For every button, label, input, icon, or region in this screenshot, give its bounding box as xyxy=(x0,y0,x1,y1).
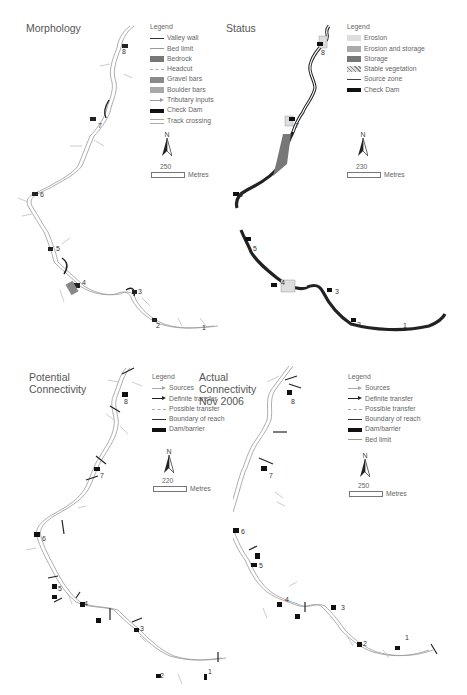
bedrock-swatch-icon xyxy=(150,56,164,62)
boulder-bars-swatch-icon xyxy=(150,87,164,93)
scale-bar-graphic xyxy=(151,172,185,178)
reach-label-7: 7 xyxy=(269,472,273,479)
reach-label-2: 2 xyxy=(160,672,164,679)
panel-title-actual-connectivity: Actual Connectivity Nov 2006 xyxy=(199,371,256,407)
legend-item-boulder-bars: Boulder bars xyxy=(150,85,214,95)
boundary-of-reach-icon xyxy=(152,416,166,423)
legend-item-bedrock: Bedrock xyxy=(150,54,214,64)
panel-morphology: 8 7 6 5 4 3 2 1 Morphology Legend Valley… xyxy=(0,0,233,340)
legend-status: Legend Erosion Erosion and storage Stora… xyxy=(347,22,425,95)
possible-transfer-icon xyxy=(152,406,166,413)
legend-item-storage: Storage xyxy=(347,54,425,64)
legend-title: Legend xyxy=(347,22,425,32)
legend-morphology: Legend Valley wall Bed limit Bedrock Hea… xyxy=(150,22,214,126)
legend-item-tributary-inputs: Tributary inputs xyxy=(150,95,214,105)
reach-label-5: 5 xyxy=(58,585,62,592)
legend-item-definite-transfer: Definite transfer xyxy=(348,394,421,404)
reach-label-4: 4 xyxy=(285,596,289,603)
erosion-storage-swatch-icon xyxy=(347,46,361,52)
legend-item-check-dam: Check Dam xyxy=(150,105,214,115)
north-arrow: N xyxy=(159,448,179,473)
reach-label-4: 4 xyxy=(82,279,86,286)
legend-title: Legend xyxy=(150,22,214,32)
erosion-swatch-icon xyxy=(347,35,361,41)
reach-label-4: 4 xyxy=(84,600,88,607)
reach-label-8: 8 xyxy=(291,398,295,405)
reach-label-2: 2 xyxy=(357,321,361,328)
legend-item-erosion: Erosion xyxy=(347,33,425,43)
north-arrow-icon xyxy=(358,138,368,156)
definite-transfer-arrow-icon xyxy=(152,395,166,402)
sources-arrow-icon xyxy=(348,385,362,392)
reach-label-7: 7 xyxy=(98,122,102,129)
reach-label-3: 3 xyxy=(138,288,142,295)
stable-vegetation-hatch-icon xyxy=(347,66,361,72)
reach-label-7: 7 xyxy=(295,122,299,129)
north-arrow-icon xyxy=(164,455,174,473)
scale-bar-graphic xyxy=(347,172,381,178)
headcut-icon xyxy=(150,66,164,73)
reach-label-5: 5 xyxy=(56,245,60,252)
check-dam-icon xyxy=(150,109,164,113)
reach-label-5: 5 xyxy=(253,245,257,252)
legend-item-valley-wall: Valley wall xyxy=(150,33,214,43)
reach-label-8: 8 xyxy=(124,398,128,405)
reach-label-6: 6 xyxy=(42,535,46,542)
scale-bar-graphic xyxy=(349,491,383,497)
legend-item-track-crossing: Track crossing xyxy=(150,116,214,126)
source-zone-icon xyxy=(347,76,361,83)
panel-status: 8 7 6 5 4 3 2 1 Status Legend Erosion Er… xyxy=(233,0,467,340)
north-arrow: N xyxy=(353,131,373,156)
gravel-bars-swatch-icon xyxy=(150,77,164,83)
reach-label-6: 6 xyxy=(40,191,44,198)
reach-label-4: 4 xyxy=(281,279,285,286)
reach-label-2: 2 xyxy=(156,322,160,329)
legend-item-dam-barrier: Dam/barrier xyxy=(152,424,225,434)
legend-item-bed-limit: Bed limit xyxy=(348,435,421,445)
legend-item-headcut: Headcut xyxy=(150,64,214,74)
legend-item-sources: Sources xyxy=(348,383,421,393)
legend-title: Legend xyxy=(348,372,421,382)
dam-barrier-icon xyxy=(348,428,362,432)
north-arrow-icon xyxy=(360,459,370,477)
reach-label-1: 1 xyxy=(405,634,409,641)
check-dam-icon xyxy=(347,88,361,92)
panel-title-morphology: Morphology xyxy=(26,22,81,34)
north-arrow-icon xyxy=(162,138,172,156)
legend-item-dam-barrier: Dam/barrier xyxy=(348,424,421,434)
legend-item-possible-transfer: Possible transfer xyxy=(348,404,421,414)
reach-label-1: 1 xyxy=(403,322,407,329)
scale-bar: 220 Metres xyxy=(153,477,211,492)
legend-item-erosion-and-storage: Erosion and storage xyxy=(347,44,425,54)
reach-label-1: 1 xyxy=(208,668,212,675)
sources-arrow-icon xyxy=(152,385,166,392)
reach-label-8: 8 xyxy=(122,48,126,55)
scale-bar: 230 Metres xyxy=(347,163,405,178)
legend-item-check-dam: Check Dam xyxy=(347,85,425,95)
reach-label-3: 3 xyxy=(341,604,345,611)
bed-limit-icon xyxy=(348,436,362,443)
north-arrow: N xyxy=(157,131,177,156)
legend-item-boundary-of-reach: Boundary of reach xyxy=(152,414,225,424)
possible-transfer-icon xyxy=(348,406,362,413)
definite-transfer-arrow-icon xyxy=(348,395,362,402)
storage-swatch-icon xyxy=(347,56,361,62)
legend-actual-connectivity: Legend Sources Definite transfer Possibl… xyxy=(348,372,421,445)
boundary-of-reach-icon xyxy=(348,416,362,423)
scale-bar: 250 Metres xyxy=(151,163,209,178)
legend-item-gravel-bars: Gravel bars xyxy=(150,74,214,84)
reach-label-7: 7 xyxy=(100,472,104,479)
legend-item-stable-vegetation: Stable vegetation xyxy=(347,64,425,74)
dam-barrier-icon xyxy=(152,428,166,432)
reach-label-3: 3 xyxy=(335,288,339,295)
reach-label-6: 6 xyxy=(241,528,245,535)
reach-label-6: 6 xyxy=(239,191,243,198)
reach-label-5: 5 xyxy=(259,562,263,569)
legend-item-boundary-of-reach: Boundary of reach xyxy=(348,414,421,424)
legend-item-source-zone: Source zone xyxy=(347,74,425,84)
reach-label-3: 3 xyxy=(140,625,144,632)
valley-wall-icon xyxy=(150,35,164,42)
panel-actual-connectivity: 8 7 6 5 4 3 2 1 Actual Connectivity Nov … xyxy=(233,340,467,695)
scale-bar-graphic xyxy=(153,486,187,492)
tributary-arrow-icon xyxy=(150,97,164,104)
